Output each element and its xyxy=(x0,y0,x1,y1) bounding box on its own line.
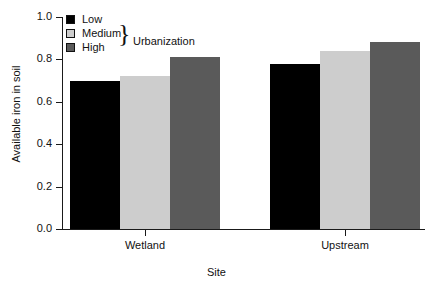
y-tick xyxy=(56,187,62,188)
y-tick xyxy=(56,144,62,145)
y-tick-label: 0.0 xyxy=(4,223,52,234)
x-axis-line xyxy=(62,229,425,230)
x-tick xyxy=(145,230,146,236)
legend-swatch-high xyxy=(66,43,75,52)
legend-swatch-low xyxy=(66,15,75,24)
bar-chart: 0.00.20.40.60.81.0 Available iron in soi… xyxy=(0,0,433,290)
bar-wetland-medium xyxy=(120,76,170,229)
bar-wetland-high xyxy=(170,57,220,229)
x-tick-label: Wetland xyxy=(85,240,205,251)
y-axis-line xyxy=(62,17,63,229)
legend-label-medium: Medium xyxy=(82,28,121,39)
x-tick xyxy=(345,230,346,236)
y-tick-label: 1.0 xyxy=(4,11,52,22)
y-tick xyxy=(56,59,62,60)
legend-label-high: High xyxy=(82,42,105,53)
legend-brace-icon: } xyxy=(118,24,130,44)
legend-group-title: Urbanization xyxy=(133,36,195,47)
legend-item: Low xyxy=(66,13,121,26)
bar-upstream-low xyxy=(270,64,320,229)
x-tick-label: Upstream xyxy=(285,240,405,251)
legend-item: Medium xyxy=(66,27,121,40)
bar-wetland-low xyxy=(70,81,120,229)
y-tick xyxy=(56,102,62,103)
legend-item: High xyxy=(66,41,121,54)
legend: Low Medium High xyxy=(66,13,121,55)
legend-swatch-medium xyxy=(66,29,75,38)
y-tick xyxy=(56,17,62,18)
legend-label-low: Low xyxy=(82,14,102,25)
bar-upstream-high xyxy=(370,42,420,229)
x-axis-title: Site xyxy=(0,266,433,278)
y-axis-title: Available iron in soil xyxy=(10,44,22,184)
bar-upstream-medium xyxy=(320,51,370,229)
